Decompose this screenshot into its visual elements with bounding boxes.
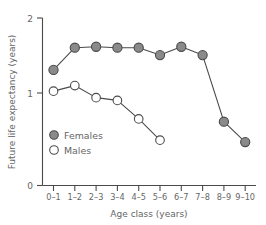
data-point-females-2: [92, 42, 101, 51]
chart-legend: Females Males: [50, 130, 103, 156]
y-tick-label-0: 0: [27, 181, 33, 191]
data-point-females-5: [155, 50, 164, 59]
x-axis-ticks: [54, 186, 246, 192]
data-point-females-9: [241, 137, 250, 146]
x-tick-labels: 0–1 1–2 2–3 3–4 4–5 5–6 6–7 7–8 8–9 9–10: [46, 192, 255, 202]
data-point-females-8: [219, 117, 228, 126]
chart-container: 2 1 0 Future life expectancy (years) 0–1…: [0, 0, 266, 225]
data-point-males-3: [113, 96, 122, 105]
y-tick-label-1: 1: [27, 89, 33, 99]
legend-marker-males-icon: [50, 146, 59, 155]
data-point-males-5: [156, 136, 165, 145]
data-point-females-3: [113, 43, 122, 52]
x-tick-label-0: 0–1: [46, 192, 61, 202]
x-tick-label-3: 3–4: [110, 192, 125, 202]
y-tick-label-2: 2: [27, 14, 33, 24]
x-tick-label-2: 2–3: [89, 192, 104, 202]
chart-plot-area: 2 1 0 Future life expectancy (years) 0–1…: [0, 0, 266, 225]
x-axis-title: Age class (years): [110, 209, 187, 219]
x-tick-label-7: 7–8: [195, 192, 210, 202]
x-tick-label-9: 9–10: [235, 192, 255, 202]
x-tick-label-4: 4–5: [131, 192, 146, 202]
x-tick-label-1: 1–2: [68, 192, 83, 202]
x-tick-label-6: 6–7: [174, 192, 189, 202]
series-line-females: [54, 47, 246, 142]
data-point-females-1: [70, 43, 79, 52]
legend-label-males: Males: [64, 145, 91, 156]
data-point-males-1: [71, 81, 80, 90]
data-point-females-6: [177, 42, 186, 51]
data-point-males-2: [92, 93, 101, 102]
y-axis-title: Future life expectancy (years): [7, 35, 17, 170]
data-point-males-4: [134, 115, 143, 124]
data-point-females-4: [134, 43, 143, 52]
data-point-females-0: [49, 65, 58, 74]
data-point-males-0: [49, 87, 58, 96]
legend-marker-females-icon: [50, 131, 59, 140]
x-tick-label-8: 8–9: [217, 192, 232, 202]
x-tick-label-5: 5–6: [153, 192, 168, 202]
legend-label-females: Females: [64, 130, 103, 141]
data-point-females-7: [198, 50, 207, 59]
